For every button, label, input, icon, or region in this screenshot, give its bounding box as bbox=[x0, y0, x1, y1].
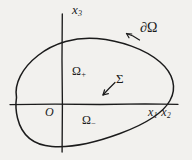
axis-label-x3: x3 bbox=[72, 3, 82, 18]
math-figure: x3 ∂Ω Ω+ Σ O Ω− x1x2 bbox=[0, 0, 192, 160]
axis-label-x3-subscript: 3 bbox=[78, 9, 82, 18]
region-label-omega-plus-base: Ω bbox=[72, 64, 81, 78]
axis-label-x1-base: x bbox=[148, 105, 153, 119]
omega-boundary-ellipse bbox=[16, 38, 174, 147]
boundary-label-partial-omega: ∂Ω bbox=[140, 21, 157, 35]
region-label-omega-plus: Ω+ bbox=[72, 65, 86, 80]
axis-label-x1-subscript: 1 bbox=[154, 111, 158, 120]
region-label-omega-plus-sign: + bbox=[81, 70, 86, 79]
region-label-omega-minus-base: Ω bbox=[82, 113, 91, 127]
diagram-canvas bbox=[0, 0, 192, 160]
region-label-omega-minus: Ω− bbox=[82, 114, 96, 129]
axis-label-x2-subscript: 2 bbox=[167, 111, 171, 120]
axis-label-x2-base: x bbox=[161, 105, 166, 119]
origin-label: O bbox=[45, 106, 54, 118]
interface-label-sigma: Σ bbox=[116, 72, 124, 85]
axis-label-x3-base: x bbox=[72, 2, 78, 17]
axis-label-x1-x2: x1x2 bbox=[148, 106, 171, 119]
region-label-omega-minus-sign: − bbox=[91, 119, 96, 128]
sigma-leader-line bbox=[103, 83, 115, 96]
